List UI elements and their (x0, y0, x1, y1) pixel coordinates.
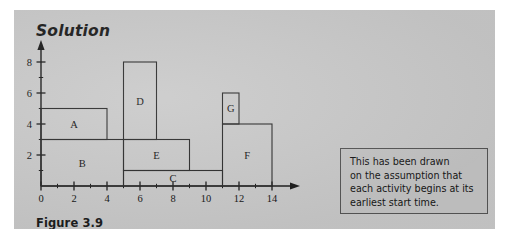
activity-label-d: D (136, 96, 144, 107)
activity-label-c: C (169, 173, 176, 184)
x-axis-tick-label: 2 (71, 193, 76, 204)
activity-label-f: F (244, 150, 250, 161)
figure-panel: Solution 024681012142468ABCDEFG This has… (14, 10, 495, 229)
x-axis-tick-label: 6 (137, 193, 142, 204)
activity-label-e: E (153, 150, 159, 161)
y-axis-tick-label: 8 (27, 57, 32, 68)
activity-label-a: A (70, 119, 78, 130)
y-axis-tick-label: 2 (27, 150, 32, 161)
figure-caption: Figure 3.9 (36, 216, 103, 229)
y-axis-tick-label: 4 (27, 119, 33, 130)
chart-svg: 024681012142468ABCDEFG (14, 10, 344, 229)
y-axis-arrow-icon (37, 40, 44, 50)
x-axis-tick-label: 0 (38, 193, 43, 204)
x-axis-tick-label: 14 (267, 193, 278, 204)
callout-box: This has been drawn on the assumption th… (340, 148, 488, 214)
x-axis-tick-label: 8 (170, 193, 175, 204)
x-axis-tick-label: 4 (104, 193, 110, 204)
activity-label-b: B (79, 158, 86, 169)
x-axis-arrow-icon (290, 182, 300, 189)
activity-label-g: G (227, 103, 235, 114)
x-axis-tick-label: 10 (201, 193, 212, 204)
x-axis-tick-label: 12 (234, 193, 245, 204)
callout-text: This has been drawn on the assumption th… (350, 155, 478, 209)
activity-chart: 024681012142468ABCDEFG (14, 10, 344, 229)
y-axis-tick-label: 6 (27, 88, 32, 99)
figure-page: Solution 024681012142468ABCDEFG This has… (0, 0, 509, 239)
